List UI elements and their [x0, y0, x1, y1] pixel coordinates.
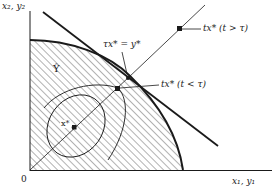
inner-point-label: tx* (t < τ) [161, 80, 206, 89]
region-label: Ŷ [53, 64, 60, 74]
origin-label: 0 [21, 175, 27, 184]
tangent-point-label: τx* = y* [103, 40, 140, 49]
x-axis-label: x₁, y₁ [232, 177, 255, 186]
center-point-marker [72, 125, 77, 130]
inner-point-marker [115, 86, 120, 91]
center-point-label: x* [60, 120, 71, 128]
outer-point-marker [177, 26, 182, 31]
outer-point-label: tx* (t > τ) [203, 24, 248, 33]
tangent-point-marker [126, 76, 130, 80]
y-axis-label: x₂, y₂ [2, 2, 25, 11]
production-frontier-diagram: x₂, y₂ x₁, y₁ 0 Ŷ τx* = y* tx* (t > τ) t… [0, 0, 279, 193]
